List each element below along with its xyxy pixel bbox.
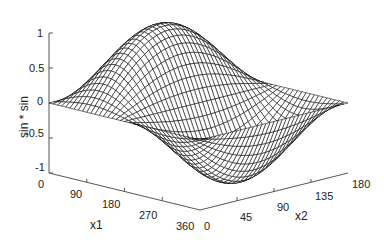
x1-axis-label: x1 (90, 219, 103, 231)
x2-tick-label: 45 (240, 212, 252, 223)
z-tick-label: 1 (37, 28, 43, 39)
x1-tick-label: 270 (139, 210, 157, 221)
z-tick-label: 0.5 (29, 63, 44, 74)
x1-tick-label: 360 (176, 221, 194, 232)
z-tick-label: -1 (35, 162, 45, 173)
x2-tick-label: 90 (277, 202, 289, 213)
x2-tick-label: 135 (315, 191, 333, 202)
surface-mesh (49, 23, 348, 183)
x1-tick-label: 0 (38, 179, 44, 190)
x1-tick-label: 180 (102, 199, 120, 210)
z-axis-label: sin * sin (17, 96, 31, 138)
x1-tick-label: 90 (70, 189, 82, 200)
z-tick-label: 0 (37, 96, 43, 107)
x2-tick-label: 180 (352, 179, 370, 190)
surface-plot (0, 0, 384, 246)
x2-axis-label: x2 (295, 210, 308, 222)
x2-tick-label: 0 (204, 221, 210, 232)
